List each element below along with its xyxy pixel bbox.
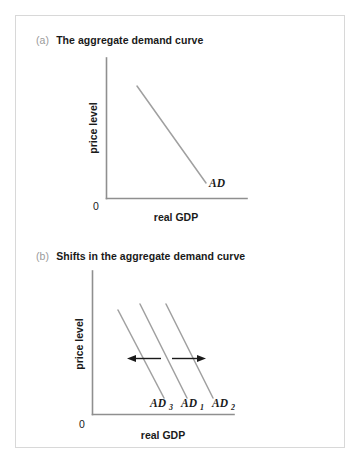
panel-a-origin-label: 0 (93, 200, 99, 212)
panel-b-curve-label-ad2-text: AD (211, 397, 229, 409)
panel-b-curve-ad3 (118, 310, 164, 398)
panel-a-chart: AD 0 real GDP price level (16, 16, 346, 232)
panel-b-chart: AD 3 AD 1 AD 2 0 real GDP price level (16, 232, 346, 449)
panel-b-curve-label-ad2: AD 2 (211, 397, 235, 412)
panel-b-y-axis-label: price level (73, 318, 85, 369)
panel-b-curve-label-ad1-sub: 1 (200, 403, 204, 412)
panel-a-x-axis-label: real GDP (154, 211, 198, 223)
panel-b-curve-ad2 (166, 304, 213, 398)
panel-a: (a) The aggregate demand curve AD 0 real… (16, 16, 344, 232)
panel-b-rightward-shift-arrow (172, 355, 206, 362)
panel-b-curve-label-ad1-text: AD (180, 397, 198, 409)
panel-b-curve-label-ad3: AD 3 (149, 397, 173, 412)
panel-a-curve-ad (137, 86, 206, 183)
panel-b-x-axis-label: real GDP (141, 429, 185, 441)
panel-b-curve-label-ad3-sub: 3 (168, 403, 173, 412)
panel-a-curve-label-ad: AD (208, 177, 226, 189)
figure-frame: (a) The aggregate demand curve AD 0 real… (15, 15, 345, 448)
panel-b-curve-label-ad3-text: AD (149, 397, 167, 409)
panel-b: (b) Shifts in the aggregate demand curve (16, 232, 344, 449)
panel-b-curve-label-ad1: AD 1 (180, 397, 204, 412)
panel-b-curve-label-ad2-sub: 2 (230, 403, 235, 412)
panel-a-y-axis-label: price level (87, 102, 99, 153)
panel-b-origin-label: 0 (79, 418, 85, 430)
panel-b-curve-ad1 (140, 304, 187, 398)
